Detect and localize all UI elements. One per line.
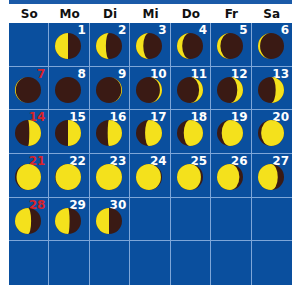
top-strip (9, 0, 292, 4)
moon-phase-icon (135, 163, 163, 191)
day-cell[interactable]: 22 (49, 154, 89, 198)
moon-phase-icon (257, 119, 285, 147)
empty-cell (252, 241, 292, 285)
day-cell[interactable]: 21 (9, 154, 49, 198)
weekday-mo: Mo (49, 5, 89, 23)
empty-cell (9, 23, 49, 67)
empty-cell (211, 198, 251, 242)
day-cell[interactable]: 26 (211, 154, 251, 198)
day-cell[interactable]: 11 (171, 67, 211, 111)
day-cell[interactable]: 9 (90, 67, 130, 111)
weekday-header: SoMoDiMiDoFrSa (9, 5, 292, 23)
moon-phase-icon (257, 32, 285, 60)
empty-cell (49, 241, 89, 285)
empty-cell (171, 241, 211, 285)
day-cell[interactable]: 12 (211, 67, 251, 111)
day-cell[interactable]: 3 (130, 23, 170, 67)
day-cell[interactable]: 15 (49, 110, 89, 154)
empty-cell (90, 241, 130, 285)
empty-cell (130, 241, 170, 285)
day-cell[interactable]: 18 (171, 110, 211, 154)
day-cell[interactable]: 20 (252, 110, 292, 154)
day-cell[interactable]: 7 (9, 67, 49, 111)
weekday-fr: Fr (211, 5, 251, 23)
weekday-sa: Sa (252, 5, 292, 23)
moon-phase-icon (14, 207, 42, 235)
moon-phase-icon (54, 32, 82, 60)
day-cell[interactable]: 14 (9, 110, 49, 154)
moon-phase-icon (135, 76, 163, 104)
day-cell[interactable]: 28 (9, 198, 49, 242)
day-cell[interactable]: 24 (130, 154, 170, 198)
moon-phase-icon (176, 32, 204, 60)
empty-cell (9, 241, 49, 285)
day-cell[interactable]: 27 (252, 154, 292, 198)
moon-phase-icon (95, 119, 123, 147)
moon-phase-icon (257, 163, 285, 191)
day-cell[interactable]: 6 (252, 23, 292, 67)
weekday-so: So (9, 5, 49, 23)
moon-phase-icon (216, 163, 244, 191)
day-cell[interactable]: 13 (252, 67, 292, 111)
day-cell[interactable]: 29 (49, 198, 89, 242)
day-cell[interactable]: 25 (171, 154, 211, 198)
empty-cell (211, 241, 251, 285)
weekday-do: Do (171, 5, 211, 23)
moon-phase-icon (176, 119, 204, 147)
moon-phase-icon (176, 76, 204, 104)
empty-cell (252, 198, 292, 242)
day-cell[interactable]: 23 (90, 154, 130, 198)
day-cell[interactable]: 19 (211, 110, 251, 154)
moon-phase-icon (54, 207, 82, 235)
empty-cell (171, 198, 211, 242)
moon-calendar-grid: 1234567891011121314151617181920212223242… (9, 23, 292, 285)
moon-phase-icon (54, 76, 82, 104)
moon-phase-icon (54, 163, 82, 191)
moon-phase-icon (14, 163, 42, 191)
moon-phase-icon (135, 32, 163, 60)
moon-phase-icon (14, 76, 42, 104)
moon-phase-icon (216, 119, 244, 147)
day-cell[interactable]: 2 (90, 23, 130, 67)
moon-phase-icon (135, 119, 163, 147)
moon-phase-icon (216, 76, 244, 104)
moon-phase-icon (95, 207, 123, 235)
day-cell[interactable]: 17 (130, 110, 170, 154)
moon-phase-icon (95, 32, 123, 60)
moon-phase-icon (95, 76, 123, 104)
moon-phase-icon (216, 32, 244, 60)
moon-phase-icon (54, 119, 82, 147)
day-cell[interactable]: 4 (171, 23, 211, 67)
weekday-mi: Mi (130, 5, 170, 23)
empty-cell (130, 198, 170, 242)
moon-phase-icon (257, 76, 285, 104)
moon-phase-icon (95, 163, 123, 191)
day-cell[interactable]: 8 (49, 67, 89, 111)
day-cell[interactable]: 5 (211, 23, 251, 67)
weekday-di: Di (90, 5, 130, 23)
moon-phase-icon (176, 163, 204, 191)
day-cell[interactable]: 10 (130, 67, 170, 111)
day-cell[interactable]: 16 (90, 110, 130, 154)
day-cell[interactable]: 1 (49, 23, 89, 67)
day-cell[interactable]: 30 (90, 198, 130, 242)
moon-phase-icon (14, 119, 42, 147)
